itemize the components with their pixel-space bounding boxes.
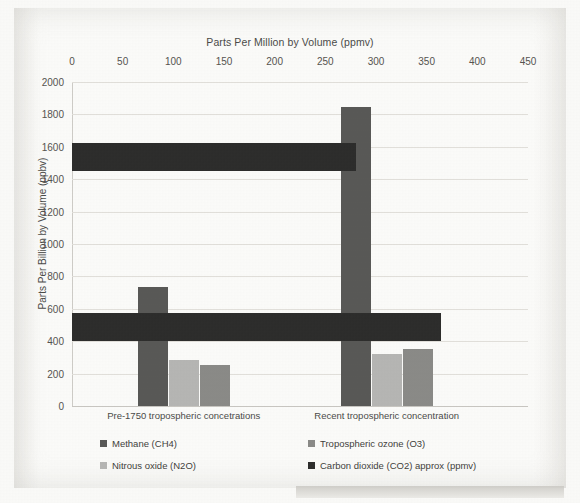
legend-swatch-icon <box>100 440 107 447</box>
legend-swatch-icon <box>308 462 315 469</box>
y-axis-tick-label: 1800 <box>42 109 64 120</box>
bar-carbon-dioxide-co2 <box>72 313 441 341</box>
top-axis-title: Parts Per Million by Volume (ppmv) <box>22 36 558 48</box>
legend-label: Tropospheric ozone (O3) <box>320 438 425 449</box>
x-axis-tick-label: 350 <box>418 56 435 67</box>
chart-legend: Methane (CH4)Nitrous oxide (N2O)Troposph… <box>72 432 542 478</box>
legend-swatch-icon <box>308 440 315 447</box>
x-axis-tick-label: 400 <box>469 56 486 67</box>
legend-item[interactable]: Methane (CH4) <box>100 438 177 449</box>
x-axis-tick-label: 200 <box>266 56 283 67</box>
y-axis-tick-label: 2000 <box>42 77 64 88</box>
bar-nitrous-oxide-n2o- <box>169 360 199 406</box>
y-axis-tick-label: 200 <box>47 368 64 379</box>
category-label: Pre-1750 tropospheric concetrations <box>107 410 260 421</box>
gridline <box>72 82 528 83</box>
category-label: Recent tropospheric concentration <box>314 410 459 421</box>
y-axis-tick-label: 1000 <box>42 239 64 250</box>
y-axis-tick-label: 1600 <box>42 141 64 152</box>
gridline <box>72 179 528 180</box>
y-axis-tick-label: 400 <box>47 336 64 347</box>
legend-label: Carbon dioxide (CO2) approx (ppmv) <box>320 460 476 471</box>
bar-methane-ch4- <box>138 287 168 406</box>
y-axis-tick-label: 1200 <box>42 206 64 217</box>
gridline <box>72 114 528 115</box>
gridline <box>72 212 528 213</box>
gridline <box>72 244 528 245</box>
x-axis-tick-label: 0 <box>69 56 75 67</box>
legend-label: Methane (CH4) <box>112 438 177 449</box>
x-axis-tick-label: 300 <box>368 56 385 67</box>
x-axis-tick-label: 450 <box>520 56 537 67</box>
y-axis-tick-label: 600 <box>47 303 64 314</box>
legend-item[interactable]: Nitrous oxide (N2O) <box>100 460 196 471</box>
x-axis-tick-label: 100 <box>165 56 182 67</box>
top-axis-ticks: 050100150200250300350400450 <box>22 56 558 72</box>
bar-nitrous-oxide-n2o- <box>372 354 402 406</box>
y-axis-tick-label: 1400 <box>42 174 64 185</box>
x-axis-tick-label: 50 <box>117 56 128 67</box>
legend-item[interactable]: Carbon dioxide (CO2) approx (ppmv) <box>308 460 476 471</box>
scanned-page: Parts Per Million by Volume (ppmv) 05010… <box>0 0 580 503</box>
plot-area <box>72 82 528 406</box>
y-axis-tick-label: 0 <box>58 401 64 412</box>
legend-swatch-icon <box>100 462 107 469</box>
bar-carbon-dioxide-co2 <box>72 143 356 171</box>
legend-label: Nitrous oxide (N2O) <box>112 460 196 471</box>
gridline <box>72 276 528 277</box>
greenhouse-gas-bar-chart: Parts Per Million by Volume (ppmv) 05010… <box>22 28 558 480</box>
x-axis-tick-label: 250 <box>317 56 334 67</box>
x-axis-tick-label: 150 <box>216 56 233 67</box>
bar-tropospheric-ozone-o3- <box>200 365 230 406</box>
left-axis-ticks: 0200400600800100012001400160018002000 <box>22 75 70 405</box>
bar-tropospheric-ozone-o3- <box>403 349 433 406</box>
gridline <box>72 406 528 407</box>
scan-artifact-band <box>296 486 564 498</box>
category-labels: Pre-1750 tropospheric concetrationsRecen… <box>72 410 528 428</box>
y-axis-tick-label: 800 <box>47 271 64 282</box>
legend-item[interactable]: Tropospheric ozone (O3) <box>308 438 425 449</box>
